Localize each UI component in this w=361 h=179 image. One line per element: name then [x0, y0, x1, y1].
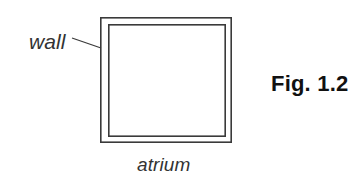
wall-leader-line: [72, 38, 101, 48]
outer-wall-square: [101, 18, 231, 142]
figure-number-label: Fig. 1.2: [271, 73, 348, 95]
atrium-label: atrium: [137, 155, 190, 174]
inner-wall-square: [109, 25, 225, 136]
figure-canvas: wall atrium Fig. 1.2: [0, 0, 361, 179]
wall-label: wall: [29, 31, 66, 52]
